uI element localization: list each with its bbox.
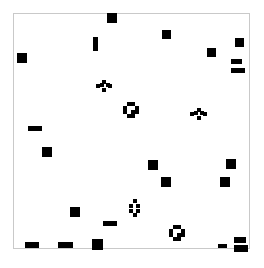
data-point-filled-square bbox=[17, 53, 27, 63]
data-point-vertical-bar bbox=[93, 37, 98, 51]
data-point-dash bbox=[234, 237, 246, 243]
data-point-open-diamond bbox=[96, 80, 112, 92]
data-point-dash bbox=[231, 68, 245, 73]
data-point-open-diamond-v bbox=[129, 199, 140, 217]
data-point-filled-square bbox=[161, 177, 171, 187]
data-point-filled-square bbox=[70, 207, 80, 217]
data-point-filled-square bbox=[235, 38, 244, 47]
data-point-filled-square bbox=[107, 13, 117, 23]
data-point-open-diamond bbox=[190, 108, 207, 120]
data-point-dash bbox=[234, 245, 248, 252]
data-point-dash bbox=[58, 242, 73, 248]
figure-caption bbox=[13, 256, 250, 265]
data-point-open-cluster bbox=[169, 225, 185, 241]
data-point-dash bbox=[231, 59, 242, 64]
data-point-filled-square bbox=[92, 239, 103, 250]
data-point-filled-square bbox=[207, 48, 216, 57]
data-point-filled-square bbox=[220, 177, 230, 187]
data-point-dash bbox=[28, 126, 42, 131]
data-point-dash bbox=[25, 242, 39, 248]
data-point-filled-square bbox=[162, 30, 171, 39]
data-point-dash bbox=[218, 244, 227, 248]
data-point-dash bbox=[103, 221, 117, 226]
scatter-marks-layer bbox=[13, 13, 250, 249]
data-point-filled-square bbox=[226, 159, 236, 169]
data-point-filled-square bbox=[42, 147, 52, 157]
data-point-filled-square bbox=[148, 160, 158, 170]
data-point-open-cluster bbox=[123, 102, 139, 118]
figure-root bbox=[0, 0, 264, 268]
